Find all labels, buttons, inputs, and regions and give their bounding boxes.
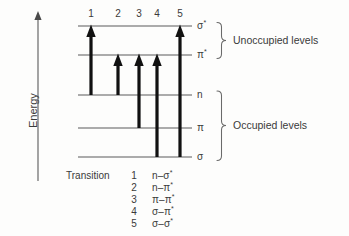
energy-axis-label: Energy <box>28 93 39 128</box>
level-label-pi-base: π <box>197 122 204 133</box>
transition-row-3-to: π <box>165 194 172 205</box>
level-label-pi-star: π* <box>197 50 207 60</box>
column-number-3: 3 <box>132 9 146 19</box>
transition-arrow-5 <box>175 25 184 158</box>
transition-row-2-number: 2 <box>128 183 140 193</box>
transition-row-1-number: 1 <box>128 171 140 181</box>
bracket-unoccupied <box>217 23 226 59</box>
transition-row-2-label: n–π* <box>152 183 173 193</box>
transition-row-3-label: π–π* <box>152 195 175 205</box>
level-label-pi-star-mark: * <box>204 48 207 55</box>
transition-arrow-1 <box>86 25 95 96</box>
transition-row-1-label: n–σ* <box>152 171 172 181</box>
transition-row-5-number: 5 <box>128 219 140 229</box>
transition-row-4-number: 4 <box>128 207 140 217</box>
level-label-sigma: σ <box>197 152 203 162</box>
level-label-sigma-star-mark: * <box>203 19 206 26</box>
transition-row-4-label: σ–π* <box>152 207 174 217</box>
column-number-2: 2 <box>111 9 125 19</box>
mo-energy-level-diagram: Energy 1 2 3 4 5 σ* π* n π σ Unoccupied … <box>0 0 349 236</box>
transition-row-5-label: σ–σ* <box>152 219 173 229</box>
transition-table-header: Transition <box>66 171 110 181</box>
bracket-occupied <box>217 91 226 161</box>
level-label-n: n <box>197 90 203 100</box>
transition-row-3-to-mark: * <box>172 193 175 200</box>
column-number-1: 1 <box>84 9 98 19</box>
level-label-n-base: n <box>197 89 203 100</box>
transition-arrow-4 <box>152 54 161 158</box>
transition-arrow-3 <box>134 54 143 129</box>
transition-arrow-2 <box>113 54 122 96</box>
column-number-5: 5 <box>173 9 187 19</box>
transition-row-4-to-mark: * <box>171 205 174 212</box>
transition-row-5-to-mark: * <box>170 217 173 224</box>
column-number-4: 4 <box>150 9 164 19</box>
level-label-sigma-base: σ <box>197 151 203 162</box>
level-label-sigma-star: σ* <box>197 21 206 31</box>
bracket-label-unoccupied: Unoccupied levels <box>233 35 318 46</box>
transition-row-3-from: π <box>152 194 159 205</box>
energy-level-lines <box>78 26 192 157</box>
transition-row-5-from: σ <box>152 218 158 229</box>
transition-row-1-from: n <box>152 170 158 181</box>
transition-row-3-number: 3 <box>128 195 140 205</box>
transition-arrows <box>86 25 184 158</box>
transition-row-1-to-mark: * <box>170 169 173 176</box>
transition-row-2-from: n <box>152 182 158 193</box>
transition-row-2-to-mark: * <box>170 181 173 188</box>
group-brackets <box>217 23 226 161</box>
transition-row-4-from: σ <box>152 206 158 217</box>
bracket-label-occupied: Occupied levels <box>233 120 307 131</box>
transition-row-4-to: π <box>164 206 171 217</box>
level-label-pi: π <box>197 123 204 133</box>
